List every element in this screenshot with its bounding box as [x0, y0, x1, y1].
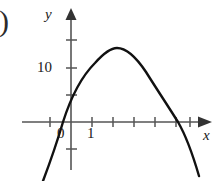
figure-panel: ) y x 10 0 1	[0, 0, 221, 181]
y-tick-label-10: 10	[37, 60, 52, 75]
y-axis-label: y	[45, 7, 52, 22]
x-axis-arrowhead	[198, 117, 212, 128]
x-tick-label-0: 0	[57, 126, 65, 141]
graph-canvas	[0, 0, 221, 181]
y-axis-arrowhead	[66, 8, 77, 20]
x-tick-label-1: 1	[87, 126, 95, 141]
x-axis-label: x	[203, 128, 210, 143]
